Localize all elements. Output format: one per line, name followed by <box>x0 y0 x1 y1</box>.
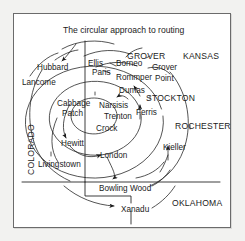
region-label-kansas: KANSAS <box>183 52 219 61</box>
city-label-paris: Paris <box>92 69 111 77</box>
arc-top-2 <box>84 50 130 56</box>
city-label-borneo: Borneo <box>116 60 142 68</box>
region-label-colorado: COLORADO <box>27 124 36 175</box>
city-label-xanadu: Xanadu <box>121 206 149 214</box>
diagram-canvas: The circular approach to routing KANSAS … <box>0 0 245 241</box>
region-label-stockton: STOCKTON <box>146 94 195 103</box>
city-label-grover: Grover <box>152 64 177 72</box>
arc-top-1 <box>62 41 114 49</box>
city-label-lancome: Lancome <box>22 79 56 87</box>
city-label-point: Point <box>155 75 174 83</box>
city-label-rommper: Rommper <box>116 74 152 82</box>
city-label-kieller: Kieller <box>163 144 186 152</box>
arc-hubbard-up <box>55 50 78 60</box>
city-label-trenton: Trenton <box>104 113 132 121</box>
region-label-rochester: ROCHESTER <box>175 122 231 131</box>
city-label-london: London <box>100 152 127 160</box>
diagram-title: The circular approach to routing <box>63 26 184 35</box>
arc-kieller-tail <box>160 155 168 172</box>
arrow-hubbard <box>62 44 76 61</box>
city-label-narsisis: Narsisis <box>99 102 128 110</box>
city-label-livingstown: Livingstown <box>38 161 81 169</box>
city-label-ferris: Ferris <box>136 109 157 117</box>
city-label-bowling-wood: Bowling Wood <box>99 185 151 193</box>
region-label-oklahoma: OKLAHOMA <box>172 199 222 208</box>
arc-left-mid <box>52 118 58 162</box>
city-label-dumas: Dumas <box>119 87 145 95</box>
city-label-crock: Crock <box>96 125 117 133</box>
city-label-cabbage: Cabbage <box>57 100 90 108</box>
arrow-inner <box>117 96 128 99</box>
city-label-ellis: Ellis <box>88 60 103 68</box>
city-label-hewitt: Hewitt <box>61 140 84 148</box>
city-label-hubbard: Hubbard <box>37 64 68 72</box>
city-label-patch: Patch <box>62 110 83 118</box>
